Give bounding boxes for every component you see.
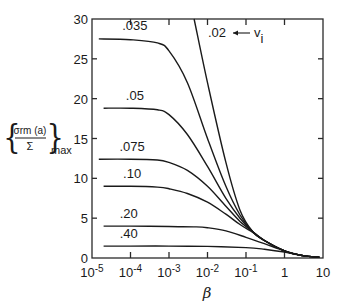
x-tick-label: 10-3 [157, 263, 181, 280]
y-tick-label: 15 [74, 132, 88, 147]
x-axis-label: β [202, 284, 212, 302]
curve-p02 [194, 19, 319, 257]
annotation-value: .02 [208, 25, 226, 40]
curve-label: .075 [119, 139, 144, 154]
curve-label: .10 [123, 166, 141, 181]
curve-label: .035 [122, 18, 147, 33]
curve-labels: .035.05.075.10.20.40 [119, 18, 147, 241]
ylabel-subscript: max [51, 144, 72, 156]
plot-axes: 10-510-410-310-210-1110051015202530 [74, 12, 331, 280]
x-tick-label: 10-4 [119, 263, 143, 280]
y-tick-label: 0 [81, 251, 88, 266]
arrowhead-icon [233, 31, 238, 36]
y-tick-label: 30 [74, 12, 88, 27]
x-tick-label: 1 [281, 265, 288, 280]
curve-label: .40 [120, 226, 138, 241]
curve-label: .05 [126, 88, 144, 103]
x-tick-label: 10-1 [234, 263, 258, 280]
curve-label: .20 [120, 206, 138, 221]
ylabel-numerator: σrm (a) [14, 125, 47, 136]
y-tick-label: 25 [74, 52, 88, 67]
vi-annotation: .02vi [208, 25, 264, 46]
ylabel-denominator: Σ [27, 140, 34, 152]
y-tick-label: 5 [81, 211, 88, 226]
x-tick-label: 10-2 [196, 263, 220, 280]
y-tick-label: 20 [74, 92, 88, 107]
y-tick-label: 10 [74, 171, 88, 186]
chart-canvas: 10-510-410-310-210-1110051015202530 .035… [0, 0, 341, 306]
y-axis-label: {σrm (a)Σ}max [3, 116, 72, 156]
x-axis-title: β [202, 284, 212, 302]
x-tick-label: 10 [316, 265, 330, 280]
annotation-variable: vi [254, 25, 264, 46]
plot-curves [99, 19, 319, 257]
